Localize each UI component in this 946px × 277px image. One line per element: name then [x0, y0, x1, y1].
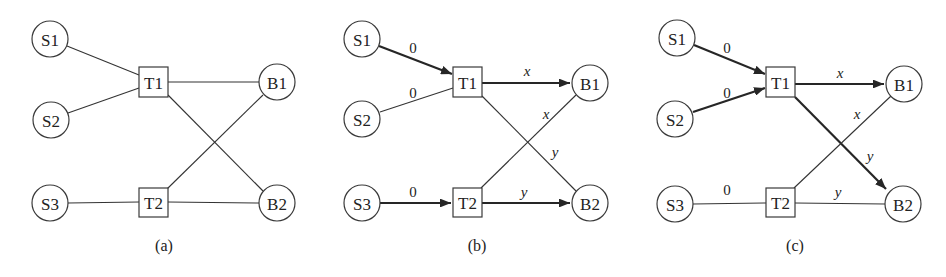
node-label: B1 [894, 76, 914, 95]
node-c-s1: S1 [659, 20, 695, 56]
edge-b-t1-b2 [482, 96, 576, 191]
node-b-t1: T1 [453, 67, 482, 97]
node-label: T1 [144, 74, 163, 93]
node-label: T2 [458, 194, 477, 213]
node-a-t2: T2 [139, 188, 168, 217]
edge-label-c-t2-b2: y [833, 184, 842, 200]
edge-label-c-s1-t1: 0 [723, 40, 731, 56]
edge-label-c-t2-b1: x [853, 106, 861, 122]
edge-label-c-t1-b2: y [865, 148, 874, 164]
node-label: B2 [893, 196, 913, 215]
node-c-b1: B1 [886, 66, 922, 102]
edge-c-t2-b2 [795, 203, 885, 204]
edge-label-b-s1-t1: 0 [409, 40, 417, 56]
node-b-s3: S3 [344, 185, 380, 221]
node-label: T1 [771, 74, 790, 93]
edge-label-c-s3-t2: 0 [723, 182, 731, 198]
node-c-s3: S3 [657, 186, 693, 222]
edge-a-s3-t2 [68, 202, 139, 203]
node-label: B1 [580, 75, 600, 94]
node-label: S1 [353, 31, 371, 50]
edge-label-b-s3-t2: 0 [409, 184, 417, 200]
node-label: S2 [353, 111, 371, 130]
edge-label-c-t1-b1: x [836, 65, 844, 81]
node-c-t2: T2 [766, 188, 795, 217]
node-label: T1 [458, 74, 477, 93]
node-b-s1: S1 [344, 21, 380, 57]
caption-c: (c) [786, 237, 804, 255]
node-a-s3: S3 [32, 185, 68, 221]
edge-label-c-s2-t1: 0 [723, 85, 731, 101]
panel-b: 0 0 0 x y x y S1 S2 S3 T1 T2 B1 [344, 21, 608, 255]
edge-label-b-t2-b2: y [519, 184, 528, 200]
panel-a: S1 S2 S3 T1 T2 B1 B2 (a) [32, 21, 295, 255]
node-a-t1: T1 [139, 67, 168, 97]
edge-label-b-t1-b2: y [550, 144, 559, 160]
edge-c-t1-b2 [795, 97, 886, 189]
caption-a: (a) [155, 237, 173, 255]
node-label: S3 [353, 195, 371, 214]
node-label: B2 [580, 195, 600, 214]
node-label: T2 [771, 194, 790, 213]
node-c-b2: B2 [885, 186, 921, 222]
node-c-s2: S2 [657, 101, 693, 137]
node-label: S1 [668, 30, 686, 49]
node-label: S2 [666, 111, 684, 130]
diagram-canvas: S1 S2 S3 T1 T2 B1 B2 (a) [0, 0, 946, 277]
node-label: B2 [267, 195, 287, 214]
edge-a-s2-t1 [68, 88, 139, 113]
node-label: T2 [144, 194, 163, 213]
node-a-s2: S2 [33, 102, 69, 138]
node-a-b2: B2 [259, 185, 295, 221]
edge-c-s3-t2 [693, 203, 766, 204]
node-label: B1 [267, 74, 287, 93]
node-a-s1: S1 [32, 21, 68, 57]
node-label: S3 [666, 196, 684, 215]
node-b-t2: T2 [453, 188, 482, 217]
node-b-b2: B2 [572, 185, 608, 221]
node-a-b1: B1 [259, 64, 295, 100]
node-label: S1 [41, 31, 59, 50]
edge-label-b-s2-t1: 0 [409, 85, 417, 101]
caption-b: (b) [468, 237, 487, 255]
edge-a-s1-t1 [67, 46, 139, 75]
node-label: S2 [42, 112, 60, 131]
edge-a-t2-b2 [168, 202, 259, 203]
edge-label-b-t1-b1: x [523, 63, 531, 79]
node-label: S3 [41, 195, 59, 214]
panel-c: 0 0 0 x y x y S1 S2 S3 T1 T2 B1 [657, 20, 922, 255]
edge-label-b-t2-b1: x [542, 106, 550, 122]
node-b-b1: B1 [572, 65, 608, 101]
node-c-t1: T1 [766, 67, 795, 97]
node-b-s2: S2 [344, 101, 380, 137]
